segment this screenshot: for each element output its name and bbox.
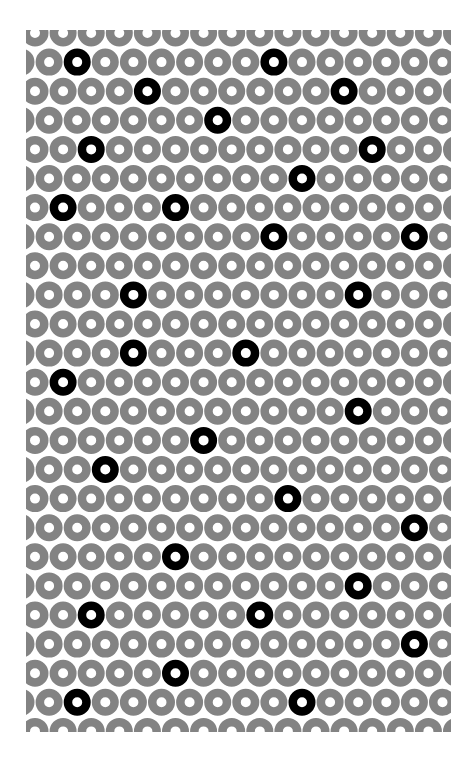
gray-ring-icon [363,489,382,508]
gray-ring-icon [222,257,241,276]
gray-ring-icon [208,344,227,363]
gray-ring-icon [433,635,451,654]
gray-ring-icon [237,460,256,479]
gray-ring-icon [293,402,312,421]
gray-ring-icon [321,286,340,305]
black-ring-icon [194,431,213,450]
gray-ring-icon [138,315,157,334]
gray-ring-icon [307,548,326,567]
gray-ring-icon [251,431,269,450]
gray-ring-icon [54,82,73,101]
gray-ring-icon [279,140,298,159]
gray-ring-icon [82,373,101,392]
gray-ring-icon [124,111,142,130]
gray-ring-icon [152,460,171,479]
gray-ring-icon [222,315,241,334]
gray-ring-icon [222,140,241,159]
gray-ring-icon [96,518,115,537]
gray-ring-icon [419,198,438,217]
gray-ring-icon [138,548,157,567]
gray-ring-icon [26,489,44,508]
gray-ring-icon [293,286,312,305]
gray-ring-icon [419,257,438,276]
gray-ring-icon [96,344,115,363]
gray-ring-icon [222,82,241,101]
gray-ring-icon [307,82,326,101]
gray-ring-icon [447,548,451,567]
black-ring-icon [265,227,284,246]
gray-ring-icon [82,431,101,450]
gray-ring-icon [208,53,227,72]
gray-ring-icon [138,257,157,276]
gray-ring-icon [222,30,241,42]
gray-ring-icon [68,227,87,246]
gray-ring-icon [237,635,256,654]
gray-ring-icon [293,518,312,537]
gray-ring-icon [237,693,256,712]
gray-ring-icon [419,664,438,683]
gray-ring-icon [391,664,410,683]
black-ring-icon [208,111,227,130]
gray-ring-icon [405,693,424,712]
gray-ring-icon [405,577,424,596]
gray-ring-icon [138,664,157,683]
gray-ring-icon [237,286,256,305]
gray-ring-icon [433,227,451,246]
gray-ring-icon [26,227,30,246]
black-ring-icon [405,518,424,537]
gray-ring-icon [166,722,185,732]
gray-ring-icon [237,577,256,596]
gray-ring-icon [447,664,451,683]
black-ring-icon [124,344,142,363]
gray-ring-icon [391,431,410,450]
gray-ring-icon [433,344,451,363]
gray-ring-icon [251,140,269,159]
gray-ring-icon [110,431,129,450]
gray-ring-icon [251,489,269,508]
gray-ring-icon [194,373,213,392]
gray-ring-icon [110,257,129,276]
gray-ring-icon [265,693,284,712]
gray-ring-icon [391,140,410,159]
gray-ring-icon [307,30,326,42]
gray-ring-icon [138,198,157,217]
gray-ring-icon [54,489,73,508]
gray-ring-icon [335,664,354,683]
gray-ring-icon [447,722,451,732]
gray-ring-icon [208,227,227,246]
gray-ring-icon [40,286,59,305]
black-ring-icon [279,489,298,508]
gray-ring-icon [265,169,284,188]
gray-ring-icon [335,257,354,276]
gray-ring-icon [82,315,101,334]
gray-ring-icon [307,606,326,625]
gray-ring-icon [180,111,199,130]
gray-ring-icon [293,635,312,654]
gray-ring-icon [349,635,368,654]
gray-ring-icon [138,722,157,732]
gray-ring-icon [68,111,87,130]
gray-ring-icon [26,82,44,101]
gray-ring-icon [405,402,424,421]
gray-ring-icon [237,169,256,188]
gray-ring-icon [321,111,340,130]
black-ring-icon [82,606,101,625]
gray-ring-icon [307,722,326,732]
gray-ring-icon [335,198,354,217]
gray-ring-icon [96,53,115,72]
gray-ring-icon [124,460,142,479]
black-ring-icon [335,82,354,101]
gray-ring-icon [279,315,298,334]
gray-ring-icon [447,82,451,101]
gray-ring-icon [321,169,340,188]
gray-ring-icon [26,198,44,217]
gray-ring-icon [26,315,44,334]
gray-ring-icon [82,722,101,732]
gray-ring-icon [180,227,199,246]
gray-ring-icon [54,548,73,567]
gray-ring-icon [321,635,340,654]
gray-ring-icon [222,198,241,217]
gray-ring-icon [377,169,396,188]
gray-ring-icon [82,489,101,508]
gray-ring-icon [363,664,382,683]
